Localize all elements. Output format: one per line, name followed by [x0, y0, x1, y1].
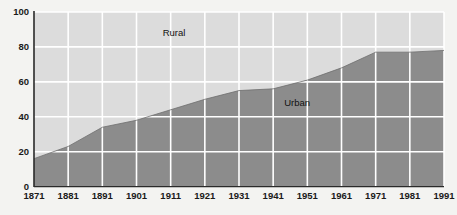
x-tick-1981: 1981 [399, 190, 421, 201]
x-tick-1911: 1911 [160, 190, 181, 201]
x-tick-1991: 1991 [433, 190, 455, 201]
population-distribution-area-chart: 020406080100 187118811891190119111921193… [0, 0, 457, 215]
y-tick-60: 60 [18, 76, 29, 87]
rural-series-label: Rural [163, 27, 186, 38]
y-tick-40: 40 [18, 111, 29, 122]
y-tick-20: 20 [18, 146, 29, 157]
x-tick-1881: 1881 [58, 190, 80, 201]
x-tick-1961: 1961 [331, 190, 353, 201]
x-axis-tick-labels: 1871188118911901191119211931194119511961… [23, 190, 455, 201]
x-tick-1871: 1871 [23, 190, 45, 201]
x-tick-1941: 1941 [263, 190, 285, 201]
x-tick-1921: 1921 [194, 190, 216, 201]
y-axis-tick-labels: 020406080100 [13, 6, 29, 192]
x-tick-1901: 1901 [126, 190, 148, 201]
chart-canvas: 020406080100 187118811891190119111921193… [0, 0, 457, 215]
x-tick-1971: 1971 [365, 190, 387, 201]
x-tick-1891: 1891 [92, 190, 114, 201]
x-tick-1931: 1931 [228, 190, 250, 201]
y-tick-100: 100 [13, 6, 29, 17]
x-tick-1951: 1951 [297, 190, 319, 201]
y-tick-80: 80 [18, 41, 29, 52]
urban-series-label: Urban [284, 97, 310, 108]
